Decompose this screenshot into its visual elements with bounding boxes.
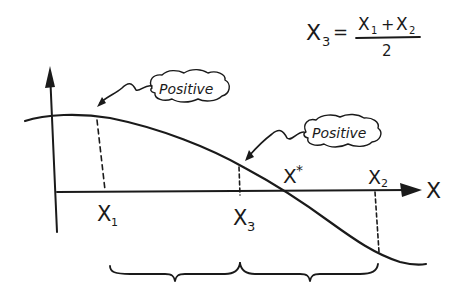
svg-text:X: X <box>233 206 247 230</box>
y-axis <box>45 66 57 232</box>
callout-positive-x1: Positive <box>97 70 229 107</box>
formula-denominator: 2 <box>382 42 392 60</box>
formula-lhs: X <box>306 20 321 45</box>
formula-num-b: X <box>396 14 408 34</box>
svg-text:X: X <box>97 202 111 226</box>
x3-dashed-line <box>239 167 240 195</box>
svg-text:2: 2 <box>381 177 388 190</box>
brace-x3-x2 <box>240 263 378 281</box>
formula-num-b-sub: 2 <box>409 25 415 36</box>
x3-label: X 3 <box>233 206 255 234</box>
svg-text:1: 1 <box>111 216 118 229</box>
x1-label: X 1 <box>97 202 118 229</box>
x1-dashed-line <box>97 120 105 190</box>
callout-text-2: Positive <box>312 125 366 141</box>
x2-dashed-line <box>375 192 379 252</box>
callout-text-1: Positive <box>159 81 213 97</box>
formula-lhs-sub: 3 <box>322 34 330 49</box>
formula-plus: + <box>381 15 394 34</box>
callout-arrow-2 <box>249 131 304 156</box>
svg-text:3: 3 <box>247 219 255 234</box>
x-axis-label: X <box>426 178 441 203</box>
svg-text:X: X <box>368 166 381 188</box>
formula-num-a: X <box>358 14 370 34</box>
x-axis-arrow-icon <box>400 183 422 197</box>
y-axis-arrow-icon <box>45 66 55 88</box>
x2-label: X 2 <box>368 166 388 190</box>
midpoint-formula: X 3 = X 1 + X 2 2 <box>306 14 420 60</box>
brace-x1-x3 <box>110 263 240 281</box>
svg-text:*: * <box>296 162 303 178</box>
root-label: X * <box>283 162 303 188</box>
fraction-bar <box>356 37 420 38</box>
formula-num-a-sub: 1 <box>371 25 377 36</box>
formula-equals: = <box>333 21 348 42</box>
bisection-diagram: X 3 = X 1 + X 2 2 X X 1 X 3 X 2 X * <box>0 0 463 293</box>
callout-positive-x3: Positive <box>245 114 381 161</box>
callout-arrow-1 <box>100 84 152 103</box>
svg-text:X: X <box>283 164 297 188</box>
